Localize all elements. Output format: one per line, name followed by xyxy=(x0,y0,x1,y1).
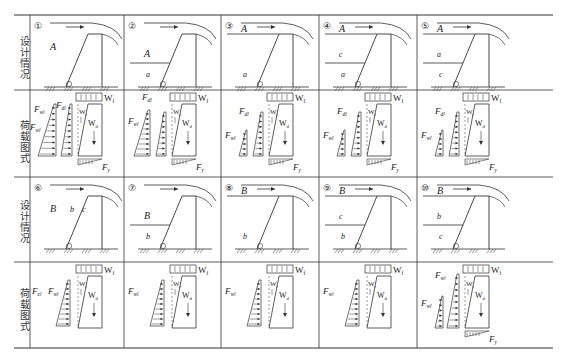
dam-upstream-face xyxy=(66,34,88,87)
ground-hatch xyxy=(490,249,493,253)
fdl-label: Fdl xyxy=(238,106,249,117)
pressure-arrow-head xyxy=(358,147,361,150)
design-case-10: ⑩Bbc xyxy=(421,183,509,253)
wr-label: Wr xyxy=(79,280,88,289)
zone-label-c: c xyxy=(339,50,343,59)
pressure-arrow-head xyxy=(440,309,443,312)
fdl-pressure-diagram xyxy=(253,112,263,156)
pressure-arrow-head xyxy=(260,131,263,134)
design-case-9: ⑨Bcb xyxy=(323,183,411,253)
top-zone-label: B xyxy=(339,185,345,196)
pressure-arrow-head xyxy=(356,318,359,321)
load-diagram-7: WfWrWdFwl xyxy=(127,265,209,328)
pressure-arrow-head xyxy=(342,148,345,151)
zone-label-b: b xyxy=(146,232,150,241)
fdl-pressure-diagram xyxy=(156,112,166,156)
wf-label: Wf xyxy=(104,265,115,276)
pressure-arrow-head xyxy=(456,136,459,139)
ground-hatch xyxy=(395,249,398,253)
pressure-arrow-head xyxy=(161,303,164,306)
wd-arrow-head xyxy=(92,313,96,317)
fy-label: Fy xyxy=(488,334,498,345)
fdl-label: Fdl xyxy=(434,106,445,117)
case-number: ⑦ xyxy=(128,183,136,193)
ground-hatch xyxy=(70,249,73,253)
ground-hatch xyxy=(454,249,457,253)
pressure-arrow-head xyxy=(356,283,359,286)
wf-label: Wf xyxy=(491,265,502,276)
pressure-arrow-head xyxy=(440,325,443,328)
pressure-arrow-head xyxy=(53,124,56,127)
pressure-arrow-head xyxy=(67,298,70,301)
fwl-label: Fwl xyxy=(224,286,236,297)
nappe-curve xyxy=(293,34,309,45)
fdl-label: Fdl xyxy=(336,106,347,117)
pressure-arrow-head xyxy=(53,118,56,121)
pressure-arrow-head xyxy=(260,126,263,129)
pressure-arrow-head xyxy=(67,303,70,306)
ground-hatch xyxy=(146,249,149,253)
wd-arrow-head xyxy=(92,141,96,145)
ground-hatch xyxy=(279,249,282,253)
fwl-pressure-diagram xyxy=(435,296,443,328)
wd-label: Wd xyxy=(279,119,290,129)
ground-hatch xyxy=(67,249,70,253)
ground-hatch xyxy=(161,249,164,253)
fy-uplift-triangle xyxy=(367,159,391,165)
ground-hatch xyxy=(261,249,264,253)
pressure-arrow-head xyxy=(440,314,443,317)
wf-label: Wf xyxy=(393,265,404,276)
pressure-arrow-head xyxy=(163,153,166,156)
dam-upstream-face xyxy=(355,196,377,249)
pressure-arrow-head xyxy=(258,283,261,286)
wd-arrow-head xyxy=(283,141,287,145)
pressure-arrow-head xyxy=(147,143,150,146)
case-number: ⑤ xyxy=(421,21,429,31)
wr-label: Wr xyxy=(173,280,182,289)
nappe-curve xyxy=(391,34,407,45)
ground-hatch xyxy=(64,249,67,253)
zone-label-a: a xyxy=(146,70,150,79)
pressure-arrow-head xyxy=(440,304,443,307)
pressure-arrow-head xyxy=(358,153,361,156)
wf-label: Wf xyxy=(295,265,306,276)
pressure-arrow-head xyxy=(258,313,261,316)
load-diagram-10: WfWrWdFyFwlFwl xyxy=(420,265,502,345)
zone-label-a: a xyxy=(437,50,441,59)
pressure-arrow-head xyxy=(163,120,166,123)
design-case-4: ④Aca xyxy=(323,21,411,91)
wd-arrow-head xyxy=(381,141,385,145)
ground-hatch xyxy=(457,249,460,253)
pressure-arrow-head xyxy=(69,153,72,156)
wd-label: Wd xyxy=(88,119,99,129)
wd-label: Wd xyxy=(377,119,388,129)
flow-arrow-head xyxy=(271,25,275,29)
wf-load-box xyxy=(463,93,489,101)
load-diagram-3: WfWrWdFyFdlFwl xyxy=(224,93,306,173)
ground-hatch xyxy=(469,249,472,253)
wd-label: Wd xyxy=(279,291,290,301)
fdl-pressure-diagram xyxy=(351,112,361,156)
ground-hatch xyxy=(100,249,103,253)
fy-uplift-triangle xyxy=(465,331,489,337)
ground-hatch xyxy=(200,249,203,253)
pressure-arrow-head xyxy=(161,288,164,291)
pressure-arrow-head xyxy=(356,303,359,306)
pressure-arrow-head xyxy=(147,128,150,131)
pressure-arrow-head xyxy=(456,131,459,134)
nappe-curve xyxy=(196,196,212,207)
ground-hatch xyxy=(164,249,167,253)
pressure-arrow-head xyxy=(456,307,459,310)
zone-label-c: c xyxy=(439,70,443,79)
wd-arrow-head xyxy=(479,313,483,317)
pressure-arrow-head xyxy=(161,323,164,326)
wd-arrow-head xyxy=(479,141,483,145)
flow-arrow-head xyxy=(369,25,373,29)
pressure-arrow-head xyxy=(342,153,345,156)
wf-label: Wf xyxy=(393,93,404,104)
pressure-arrow-head xyxy=(356,308,359,311)
load-diagram-1: WfWrWdFyFwlFwlFdl xyxy=(29,93,115,173)
flow-arrow-head xyxy=(369,187,373,191)
pressure-arrow-head xyxy=(53,112,56,115)
ground-hatch xyxy=(439,249,442,253)
